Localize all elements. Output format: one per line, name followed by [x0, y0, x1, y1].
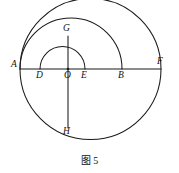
- point-label-o: O: [64, 71, 71, 81]
- geometry-canvas: [0, 0, 179, 173]
- semicircle-de: [40, 47, 85, 69]
- point-label-g: G: [63, 24, 70, 34]
- point-label-f: F: [157, 57, 163, 67]
- point-label-d: D: [36, 71, 43, 81]
- point-label-h: H: [63, 127, 70, 137]
- point-label-b: B: [118, 71, 124, 81]
- point-label-e: E: [81, 71, 87, 81]
- figure-caption: 图 5: [0, 152, 179, 167]
- geometry-figure: A D O E B F G H 图 5: [0, 0, 179, 173]
- point-label-a: A: [11, 60, 17, 70]
